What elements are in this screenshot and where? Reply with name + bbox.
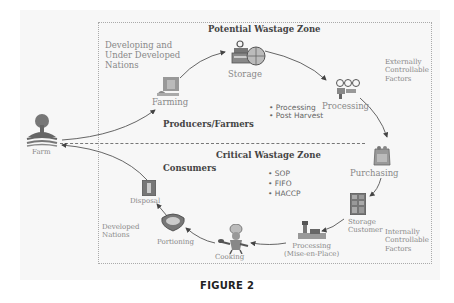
bullet-fifo: • FIFO (268, 179, 292, 188)
consumers-label: Consumers (163, 163, 216, 173)
farming-icon (155, 75, 183, 97)
internally-controllable-note: Internally Controllable Factors (385, 228, 429, 253)
storage-icon (230, 38, 266, 68)
externally-controllable-note: Externally Controllable Factors (385, 58, 429, 83)
bullet-post-harvest: • Post Harvest (269, 111, 323, 120)
node-label-storage-customer: Storage Customer (348, 218, 383, 235)
purchasing-icon (372, 145, 392, 167)
figure-caption: FIGURE 2 (200, 280, 254, 291)
farm-icon (24, 113, 60, 147)
processing-mise-icon (298, 221, 326, 241)
node-label-cooking: Cooking (215, 253, 244, 261)
producers-farmers-label: Producers/Farmers (163, 119, 254, 129)
potential-wastage-zone-title: Potential Wastage Zone (208, 24, 321, 34)
processing-icon (334, 78, 362, 100)
node-label-disposal: Disposal (130, 197, 160, 205)
node-label-farm: Farm (32, 148, 51, 156)
node-label-farming: Farming (152, 97, 188, 107)
arrow-purchasing-to-storage-customer (370, 178, 381, 196)
arrow-farming-to-storage (180, 52, 225, 78)
cooking-chef-icon (218, 224, 250, 254)
node-label-storage: Storage (228, 69, 262, 79)
bullet-haccp: • HACCP (268, 189, 300, 198)
developed-nations-note: Developed Nations (102, 223, 139, 240)
node-label-processing: Processing (322, 101, 369, 111)
critical-wastage-zone-title: Critical Wastage Zone (216, 150, 321, 160)
developing-nations-note: Developing and Under Developed Nations (105, 40, 180, 71)
arrow-mise-to-cooking (251, 243, 286, 245)
node-label-purchasing: Purchasing (350, 168, 399, 178)
storage-customer-icon (350, 193, 366, 215)
arrow-farm-to-farming (62, 110, 155, 140)
bullet-sop: • SOP (268, 169, 290, 178)
node-label-processing-mise: Processing (Mise-en-Place) (284, 242, 339, 259)
arrow-disposal-to-farm (62, 145, 147, 180)
arrow-storage-to-processing (265, 51, 326, 80)
disposal-bin-icon (142, 180, 156, 196)
portioning-plate-icon (160, 212, 186, 232)
node-label-portioning: Portioning (157, 238, 194, 246)
